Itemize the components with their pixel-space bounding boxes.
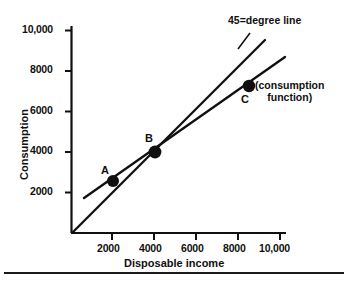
data-point-c[interactable] [243,80,255,92]
forty-five-label-leader [238,33,250,49]
consumption-function-label-line2: function) [255,92,324,104]
point-label-a: A [101,164,109,176]
figure-container: 10,000 8000 6000 4000 2000 2000 4000 600… [0,0,348,287]
bottom-divider [4,272,344,274]
x-tick-label-6000: 6000 [181,243,204,255]
forty-five-degree-line-label: 45=degree line [228,15,301,27]
data-point-a[interactable] [107,175,119,187]
x-tick-label-10000: 10,000 [259,243,290,255]
consumption-function-label-line1: (consumption [255,80,324,92]
y-tick-label-4000: 4000 [30,145,53,157]
consumption-function-label: (consumption function) [255,80,324,104]
forty-five-degree-line [72,40,265,233]
y-tick-label-8000: 8000 [30,64,53,76]
y-tick-label-10000: 10,000 [22,24,53,36]
x-tick-label-4000: 4000 [139,243,162,255]
data-point-b[interactable] [149,146,162,159]
y-tick-label-6000: 6000 [30,105,53,117]
x-tick-label-8000: 8000 [223,243,246,255]
point-label-b: B [145,132,153,144]
y-tick-label-2000: 2000 [30,186,53,198]
x-tick-label-2000: 2000 [97,243,120,255]
point-label-c: C [241,93,249,105]
x-axis-title: Disposable income [124,257,224,269]
y-axis-title: Consumption [18,109,30,180]
